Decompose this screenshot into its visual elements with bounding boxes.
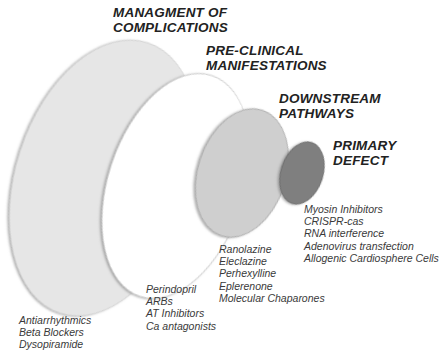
list-complications: Antiarrhythmics Beta Blockers Dysopirami… (19, 314, 91, 351)
heading-line: DOWNSTREAM (279, 91, 381, 106)
list-item: Dysopiramide (19, 338, 91, 350)
heading-line: DEFECT (333, 153, 396, 168)
list-item: CRISPR-cas (304, 215, 439, 227)
heading-complications: MANAGMENT OF COMPLICATIONS (113, 5, 228, 35)
heading-primary-defect: PRIMARY DEFECT (333, 138, 396, 168)
list-item: Beta Blockers (19, 326, 91, 338)
list-item: Myosin Inhibitors (304, 203, 439, 215)
heading-downstream: DOWNSTREAM PATHWAYS (279, 91, 381, 121)
list-primary-defect: Myosin Inhibitors CRISPR-cas RNA interfe… (304, 203, 439, 264)
list-item: Molecular Chaparones (219, 292, 325, 304)
list-item: Perhexylline (219, 267, 325, 279)
list-item: RNA interference (304, 227, 439, 239)
heading-pre-clinical: PRE-CLINICAL MANIFESTATIONS (206, 43, 327, 73)
heading-line: MANAGMENT OF (113, 5, 228, 20)
list-item: Allogenic Cardiosphere Cells (304, 252, 439, 264)
list-item: ARBs (146, 295, 216, 307)
heading-line: PATHWAYS (279, 106, 381, 121)
list-item: Antiarrhythmics (19, 314, 91, 326)
list-item: Eplerenone (219, 280, 325, 292)
list-item: Perindopril (146, 283, 216, 295)
heading-line: PRE-CLINICAL (206, 43, 327, 58)
list-item: Adenovirus transfection (304, 240, 439, 252)
heading-line: PRIMARY (333, 138, 396, 153)
heading-line: COMPLICATIONS (113, 20, 228, 35)
list-pre-clinical: Perindopril ARBs AT Inhibitors Ca antago… (146, 283, 216, 332)
list-item: Ca antagonists (146, 320, 216, 332)
heading-line: MANIFESTATIONS (206, 58, 327, 73)
list-item: AT Inhibitors (146, 307, 216, 319)
